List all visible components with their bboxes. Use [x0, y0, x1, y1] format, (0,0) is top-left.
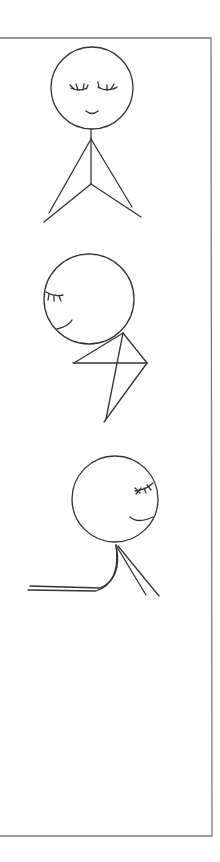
figure-standing-hands-together [44, 47, 141, 222]
diagram-frame [0, 38, 212, 836]
figure-2-upper-arm [74, 333, 123, 363]
stick-figure-diagram [0, 0, 220, 862]
figure-2-shin [104, 363, 147, 422]
figure-1-left-leg [44, 184, 91, 222]
figure-2-head [44, 254, 134, 344]
figure-2-smile-icon [57, 320, 72, 329]
figure-1-left-eye-icon [70, 84, 88, 90]
figure-3-smile-icon [130, 517, 153, 521]
figure-1-left-arm [49, 139, 91, 213]
figure-reaching-forward [28, 456, 159, 596]
figure-bowing-head [44, 254, 147, 422]
figure-3-extended-arm-upper [30, 545, 118, 588]
figure-1-right-leg [91, 184, 141, 217]
figure-3-body-line-2 [118, 546, 159, 596]
figure-1-head [51, 47, 133, 129]
figure-3-body-line-1 [117, 547, 146, 595]
figure-2-front-line [106, 333, 123, 419]
figure-3-head [72, 456, 158, 542]
figure-2-eye-icon [46, 292, 63, 301]
figure-2-back [123, 333, 147, 363]
figure-3-eye-icon [135, 483, 153, 494]
figure-3-extended-arm-lower [28, 545, 117, 591]
figure-1-smile-icon [86, 111, 98, 114]
figure-1-right-eye-icon [98, 82, 117, 90]
